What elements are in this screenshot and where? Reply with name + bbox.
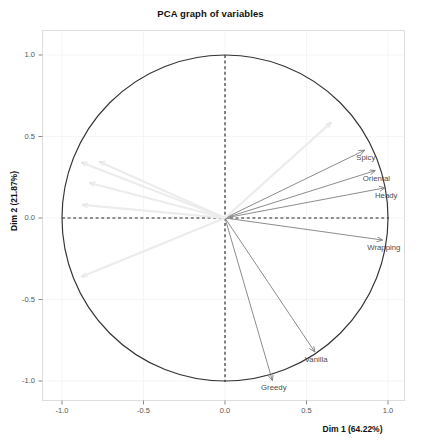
panel-border xyxy=(43,31,405,401)
y-tick-label: 1.0 xyxy=(9,50,35,59)
variable-label-wrapping: Wrapping xyxy=(367,243,400,252)
x-axis-label: Dim 1 (64.22%) xyxy=(290,424,415,434)
x-tick-label: 0.5 xyxy=(292,406,322,415)
x-tick-label: -1.0 xyxy=(47,406,77,415)
variable-label-spicy: Spicy xyxy=(356,153,375,162)
panel-background xyxy=(43,31,405,401)
pca-variables-chart: PCA graph of variables Dim 2 (21.87%) Di… xyxy=(0,0,421,443)
x-tick-label: 0.0 xyxy=(210,406,240,415)
y-tick-label: 0.5 xyxy=(9,132,35,141)
y-axis-label: Dim 2 (21.87%) xyxy=(9,141,19,261)
variable-label-heady: Heady xyxy=(375,191,398,200)
y-tick-label: -0.5 xyxy=(9,295,35,304)
variable-label-greedy: Greedy xyxy=(261,383,287,392)
page-title: PCA graph of variables xyxy=(0,8,421,19)
x-tick-label: -0.5 xyxy=(129,406,159,415)
plot-area: SpicyOrientalHeadyWrappingVanillaGreedy xyxy=(0,0,421,443)
y-tick-label: 0.0 xyxy=(9,213,35,222)
variable-label-oriental: Oriental xyxy=(363,174,391,183)
variable-label-vanilla: Vanilla xyxy=(305,355,328,364)
x-tick-label: 1.0 xyxy=(373,406,403,415)
y-tick-label: -1.0 xyxy=(9,376,35,385)
